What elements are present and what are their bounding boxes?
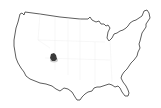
us-outline-map <box>0 0 161 108</box>
us-outline <box>14 10 150 100</box>
us-map <box>0 0 161 108</box>
